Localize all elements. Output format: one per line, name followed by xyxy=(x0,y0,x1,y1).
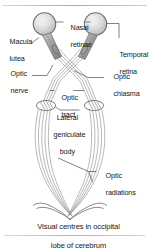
label-optic-nerve-line2: nerve xyxy=(11,86,28,95)
figure-caption-line2: lobe of cerebrum xyxy=(51,241,106,250)
left-eyeball xyxy=(33,13,55,35)
label-lgb-line2: geniculate xyxy=(54,130,86,139)
label-temporal-retina-line1: Temporal xyxy=(119,50,148,59)
label-optic-nerve: Optic nerve xyxy=(3,62,28,104)
leader-optic-nerve xyxy=(32,65,53,76)
label-nasal-retinae-line1: Nasal xyxy=(71,23,89,32)
right-lateral-geniculate-body xyxy=(84,101,103,111)
leader-radiations-arrow-2 xyxy=(89,172,93,183)
label-optic-tract-line1: Optic xyxy=(62,93,78,102)
figure-caption: Visual centres in occipital lobe of cere… xyxy=(4,212,145,252)
label-nasal-retinae-line2: retinae xyxy=(71,40,92,49)
label-optic-radiations-line1: Optic xyxy=(106,171,122,180)
leader-temporal-retina xyxy=(107,24,120,39)
label-optic-chiasma-line2: chiasma xyxy=(114,89,140,98)
figure-caption-line1: Visual centres in occipital xyxy=(37,222,119,231)
label-lateral-geniculate-body: Lateral geniculate body xyxy=(46,106,81,165)
label-optic-radiations: Optic radiations xyxy=(98,164,136,206)
label-nasal-retinae: Nasal retinae xyxy=(63,16,87,58)
label-optic-chiasma-line1: Optic xyxy=(114,72,130,81)
label-lgb-line3: body xyxy=(60,147,75,156)
label-lgb-line1: Lateral xyxy=(57,113,78,122)
label-optic-radiations-line2: radiations xyxy=(106,188,136,197)
label-optic-nerve-line1: Optic xyxy=(11,69,27,78)
label-macula-lutea-line1: Macula xyxy=(10,37,33,46)
label-optic-chiasma: Optic chiasma xyxy=(106,65,140,107)
